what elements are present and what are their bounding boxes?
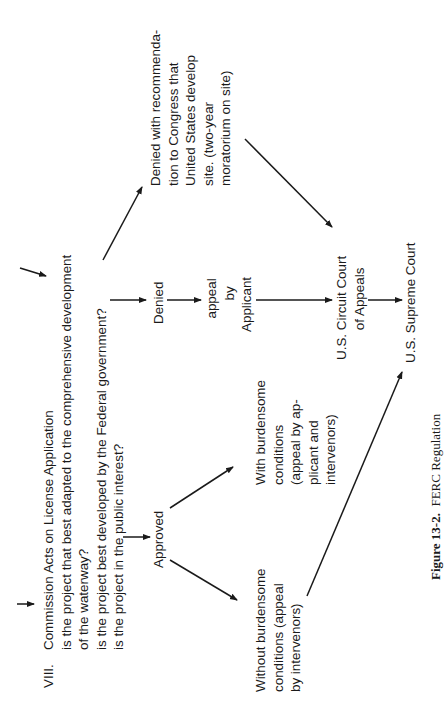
node-supreme-court: U.S. Supreme Court xyxy=(402,242,420,363)
node-denied-recommendation: Denied with recommenda- tion to Congress… xyxy=(147,30,235,186)
with-line-4: plicant and xyxy=(305,380,323,485)
caption-text: FERC Regulation xyxy=(428,414,443,507)
node-with-burdensome: With burdensome conditions (appeal by ap… xyxy=(252,380,340,485)
step-question-3: is the project in the public interest? xyxy=(110,255,128,650)
circuit-line-1: U.S. Circuit Court xyxy=(333,256,351,360)
denied-rec-line-2: tion to Congress that xyxy=(165,30,183,186)
appeal-line-1: appeal xyxy=(203,277,221,332)
node-without-burdensome: Without burdensome conditions (appeal by… xyxy=(252,568,305,692)
appeal-line-3: Applicant xyxy=(238,277,256,332)
caption-label: Figure 13-2. xyxy=(428,513,443,580)
with-line-5: intervenors) xyxy=(322,380,340,485)
denied-rec-line-4: site. (two-year xyxy=(200,30,218,186)
without-line-3: by intervenors) xyxy=(287,568,305,692)
denied-rec-line-5: moratorium on site) xyxy=(217,30,235,186)
node-appeal-by-applicant: appeal by Applicant xyxy=(203,277,256,332)
node-approved: Approved xyxy=(150,511,168,568)
node-circuit-court: U.S. Circuit Court of Appeals xyxy=(333,256,368,360)
arrow-approved-to-with xyxy=(170,467,233,508)
step-question-1: is the project that best adapted to the … xyxy=(58,255,76,650)
step-viii-block: Commission Acts on License Application i… xyxy=(40,255,128,650)
arrow-recommendation-to-circuit xyxy=(245,139,332,227)
step-question-2: is the project best developed by the Fed… xyxy=(93,255,111,650)
arrow-approved-to-without xyxy=(170,560,237,600)
step-question-1-cont: of the waterway? xyxy=(75,255,93,650)
without-line-1: Without burdensome xyxy=(252,568,270,692)
with-line-3: (appeal by ap- xyxy=(287,380,305,485)
with-line-1: With burdensome xyxy=(252,380,270,485)
step-viii-title: Commission Acts on License Application xyxy=(40,255,58,650)
with-line-2: conditions xyxy=(270,380,288,485)
figure-caption: Figure 13-2. FERC Regulation xyxy=(428,414,444,580)
without-line-2: conditions (appeal xyxy=(270,568,288,692)
step-viii-number: VIII. xyxy=(40,664,58,688)
denied-rec-line-3: United States develop xyxy=(182,30,200,186)
arrow-to-denied-recommendation xyxy=(103,187,142,260)
appeal-line-2: by xyxy=(221,277,239,332)
denied-rec-line-1: Denied with recommenda- xyxy=(147,30,165,186)
node-denied: Denied xyxy=(150,282,168,324)
circuit-line-2: of Appeals xyxy=(351,256,369,360)
